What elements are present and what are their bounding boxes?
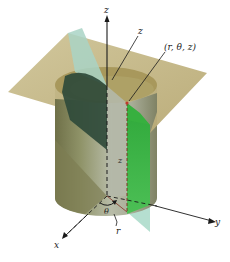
point-label: (r, θ, z) [164,42,196,52]
point-marker [125,101,128,104]
z-mid-label: z [117,156,123,165]
y-axis-label: y [214,217,221,227]
z-axis-label: z [103,5,109,15]
z-top-label: z [137,26,143,36]
leader-r [114,214,117,226]
x-axis-label: x [54,240,59,250]
theta-label: θ [104,207,109,216]
cylindrical-coordinates-diagram: z z (r, θ, z) z θ r x y [0,0,230,262]
r-label: r [116,226,121,236]
